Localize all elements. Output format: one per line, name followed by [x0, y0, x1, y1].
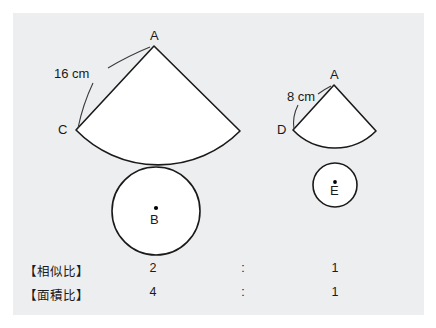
label-point-a-large: A — [150, 28, 159, 43]
label-point-a-small: A — [330, 67, 339, 82]
large-circle-center-dot — [154, 206, 158, 210]
label-point-b: B — [150, 212, 159, 227]
ratio-row-area: 【面積比】 4 : 1 — [0, 285, 436, 307]
ratio-row-similarity: 【相似比】 2 : 1 — [0, 261, 436, 283]
label-point-e: E — [330, 183, 339, 198]
ratio-colon-similarity: : — [210, 261, 276, 275]
ratio-value-area-right: 1 — [300, 285, 370, 299]
label-8cm: 8 cm — [287, 89, 315, 104]
ratio-value-area-left: 4 — [118, 285, 188, 299]
small-cone-net-group: A D E 8 cm — [277, 67, 376, 207]
label-point-c: C — [58, 122, 67, 137]
figure-root: A C B 16 cm A D E — [0, 0, 436, 328]
ratio-colon-area: : — [210, 285, 276, 299]
label-point-d: D — [277, 122, 286, 137]
large-base-circle — [112, 167, 200, 255]
ratio-value-similarity-right: 1 — [300, 261, 370, 275]
large-cone-net-group: A C B 16 cm — [54, 28, 240, 255]
label-16cm: 16 cm — [54, 66, 89, 81]
ratio-value-similarity-left: 2 — [118, 261, 188, 275]
large-sector-shape — [76, 46, 240, 165]
